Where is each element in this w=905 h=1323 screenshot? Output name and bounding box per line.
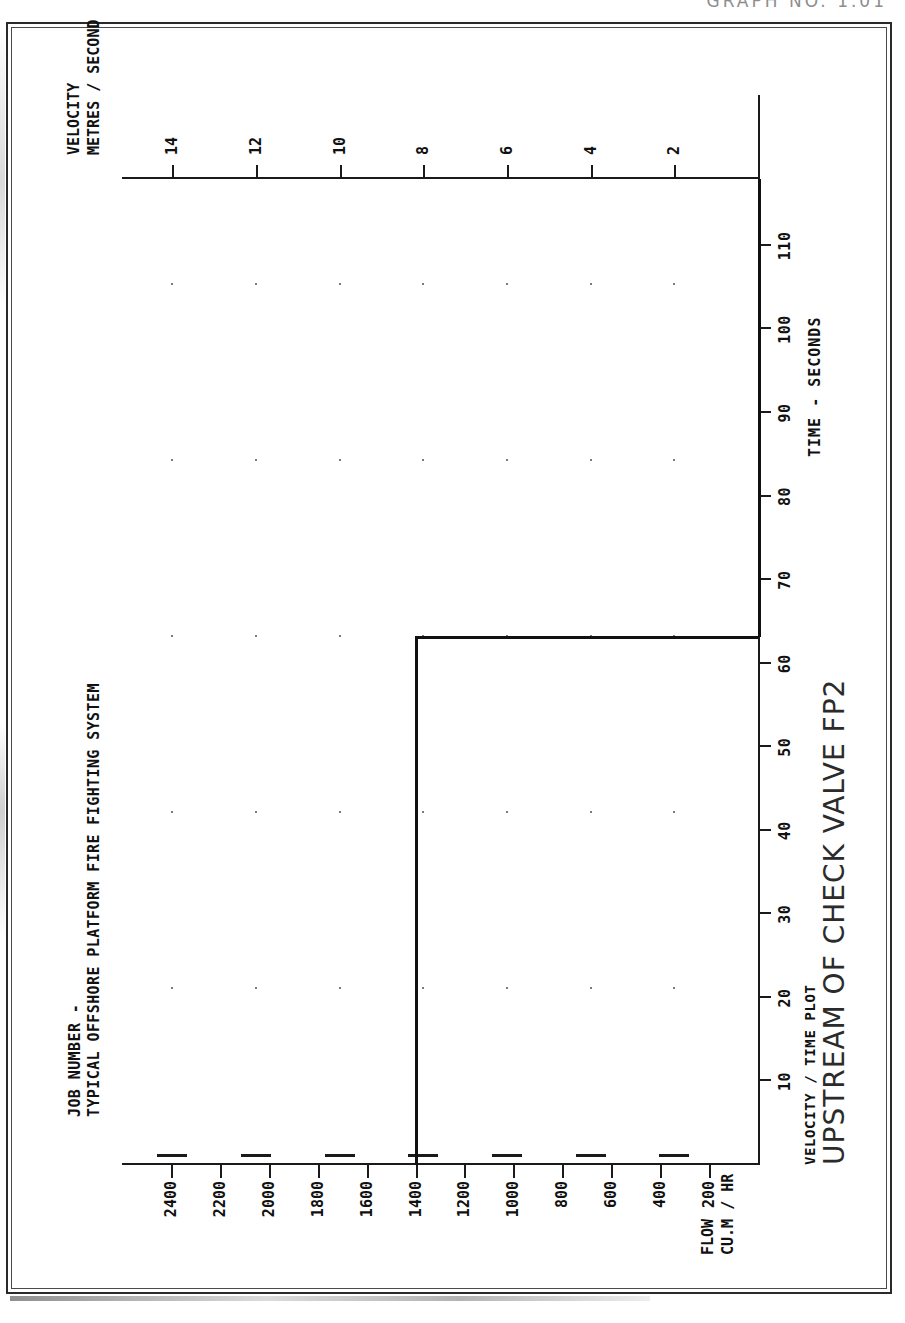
right-y-axis-tick-label: 12 xyxy=(246,136,264,154)
grid-dot xyxy=(338,986,340,988)
left-y-axis-tick-label: 2000 xyxy=(259,1181,277,1217)
right-y-axis-tick-label: 8 xyxy=(414,145,432,154)
velocity-time-plot: JOB NUMBER - TYPICAL OFFSHORE PLATFORM F… xyxy=(58,47,848,1277)
right-y-axis-tick xyxy=(506,165,508,179)
left-y-axis-tick xyxy=(268,1165,270,1178)
right-y-axis-tick xyxy=(255,165,257,179)
plot-subtitle: VELOCITY / TIME PLOT xyxy=(802,984,818,1165)
x-axis-tick xyxy=(758,912,771,914)
scan-bottom-smudge-artifact xyxy=(10,1296,650,1301)
grid-dot xyxy=(171,282,173,284)
grid-dot xyxy=(673,986,675,988)
x-axis-tick-label: 20 xyxy=(776,988,794,1007)
grid-dot xyxy=(338,634,340,636)
left-y-axis-tick-label: 1000 xyxy=(504,1181,522,1217)
series-segment xyxy=(414,638,417,1164)
job-header: JOB NUMBER - TYPICAL OFFSHORE PLATFORM F… xyxy=(66,683,104,1117)
left-y-axis-tick xyxy=(660,1165,662,1178)
grid-dot xyxy=(673,458,675,460)
x-axis-tick xyxy=(758,745,771,747)
grid-dot xyxy=(422,986,424,988)
grid-dot xyxy=(338,810,340,812)
grid-dot xyxy=(505,810,507,812)
grid-dot xyxy=(505,458,507,460)
right-y-axis-tick xyxy=(172,165,174,179)
grid-dot xyxy=(254,810,256,812)
left-y-axis-tick-label: 2200 xyxy=(210,1181,228,1217)
left-y-axis-tick-label: 800 xyxy=(553,1181,571,1208)
grid-dot xyxy=(254,458,256,460)
plot-title: UPSTREAM OF CHECK VALVE FP2 xyxy=(818,678,851,1164)
x-axis-tick-label: 10 xyxy=(776,1071,794,1090)
grid-dot xyxy=(589,282,591,284)
left-y-axis-tick xyxy=(562,1165,564,1178)
right-y-axis-tick-label: 4 xyxy=(581,145,599,154)
x-axis-tick-label: 100 xyxy=(776,315,794,344)
left-y-axis-tick xyxy=(219,1165,221,1178)
right-y-axis-inner-tick xyxy=(157,1154,187,1157)
grid-dot xyxy=(589,810,591,812)
grid-dot xyxy=(673,282,675,284)
right-axis-label-line1: VELOCITY xyxy=(64,19,84,154)
right-y-axis-inner-tick xyxy=(408,1154,438,1157)
grid-dot xyxy=(171,986,173,988)
right-y-axis-inner-tick xyxy=(491,1154,521,1157)
right-y-axis-tick xyxy=(339,165,341,179)
x-axis-label: TIME - SECONDS xyxy=(806,316,824,456)
grid-dot xyxy=(422,810,424,812)
system-description-line: TYPICAL OFFSHORE PLATFORM FIRE FIGHTING … xyxy=(85,683,104,1117)
left-y-axis-tick-label: 200 xyxy=(700,1181,718,1208)
right-y-axis-inner-tick xyxy=(240,1154,270,1157)
grid-dot xyxy=(171,458,173,460)
graph-number-header: GRAPH NO. 1.01 xyxy=(0,0,905,12)
grid-dot xyxy=(254,634,256,636)
left-y-axis-tick-label: 400 xyxy=(651,1181,669,1208)
right-y-axis-tick-label: 2 xyxy=(665,145,683,154)
series-segment xyxy=(414,635,757,638)
scan-left-edge-artifact xyxy=(0,30,5,1290)
right-y-axis-inner-tick xyxy=(659,1154,689,1157)
grid-dot xyxy=(505,282,507,284)
left-y-axis-tick-label: 1600 xyxy=(357,1181,375,1217)
left-y-axis-tick xyxy=(317,1165,319,1178)
grid-dot xyxy=(505,986,507,988)
grid-dot xyxy=(254,986,256,988)
x-axis-tick xyxy=(758,661,771,663)
grid-dot xyxy=(254,282,256,284)
x-axis-tick xyxy=(758,1079,771,1081)
right-axis-label: VELOCITY METRES / SECOND xyxy=(64,19,104,154)
x-axis-tick-label: 30 xyxy=(776,904,794,923)
left-y-axis-tick xyxy=(464,1165,466,1178)
right-y-axis-tick xyxy=(590,165,592,179)
right-y-axis-tick xyxy=(423,165,425,179)
x-axis-tick-label: 90 xyxy=(776,403,794,422)
right-y-axis-tick-label: 10 xyxy=(330,136,348,154)
left-y-axis-tick-label: 2400 xyxy=(161,1181,179,1217)
grid-dot xyxy=(171,634,173,636)
left-axis-label-line2: CU.M / HR xyxy=(718,1173,738,1254)
left-y-axis-tick xyxy=(709,1165,711,1178)
right-y-axis-inner-tick xyxy=(324,1154,354,1157)
grid-dot xyxy=(589,986,591,988)
right-y-axis-tick-label: 14 xyxy=(163,136,181,154)
x-axis-tick-label: 110 xyxy=(776,231,794,260)
grid-dot xyxy=(422,458,424,460)
left-y-axis-tick xyxy=(611,1165,613,1178)
right-axis-label-line2: METRES / SECOND xyxy=(84,19,104,154)
x-axis-tick-label: 50 xyxy=(776,737,794,756)
x-axis-tick xyxy=(758,828,771,830)
job-number-line: JOB NUMBER - xyxy=(66,683,85,1117)
grid-dot xyxy=(338,282,340,284)
rotated-plot-container: JOB NUMBER - TYPICAL OFFSHORE PLATFORM F… xyxy=(58,47,848,1277)
right-y-axis-tick-label: 6 xyxy=(497,145,515,154)
right-y-axis-inner-tick xyxy=(575,1154,605,1157)
series-segment xyxy=(758,179,761,637)
x-axis-tick-label: 70 xyxy=(776,570,794,589)
graph-number-text: GRAPH NO. 1.01 xyxy=(707,0,887,11)
left-y-axis-tick xyxy=(366,1165,368,1178)
grid-dot xyxy=(422,282,424,284)
right-y-axis-line xyxy=(122,177,760,179)
left-y-axis-tick xyxy=(170,1165,172,1178)
x-axis-tick-label: 80 xyxy=(776,487,794,506)
grid-dot xyxy=(338,458,340,460)
